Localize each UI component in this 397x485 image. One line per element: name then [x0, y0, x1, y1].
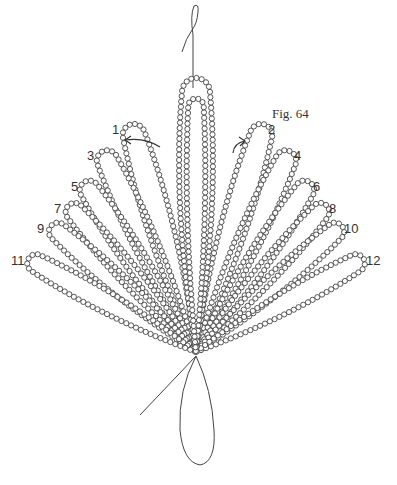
petal-label-4: 4 [294, 148, 301, 163]
petal-labels: 123456789101112 [11, 122, 380, 268]
petal-label-1: 1 [112, 122, 119, 137]
bead-loops [25, 75, 368, 354]
tail-thread [140, 356, 196, 415]
petal-label-10: 10 [344, 221, 358, 236]
petal-label-9: 9 [37, 221, 44, 236]
petal-label-12: 12 [366, 253, 380, 268]
petal-label-2: 2 [268, 122, 275, 137]
petal-label-8: 8 [329, 201, 336, 216]
petal-label-3: 3 [87, 148, 94, 163]
petal-label-6: 6 [313, 179, 320, 194]
bottom-thread-loop [180, 356, 214, 465]
petal-label-5: 5 [71, 179, 78, 194]
petal-label-11: 11 [11, 253, 25, 268]
figure-title: Fig. 64 [272, 106, 309, 121]
beading-diagram: 123456789101112 Fig. 64 [0, 0, 397, 485]
petal-label-7: 7 [54, 201, 61, 216]
